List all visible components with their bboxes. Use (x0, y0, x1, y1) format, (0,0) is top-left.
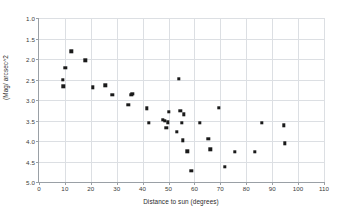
data-point (181, 138, 184, 141)
data-point (145, 106, 148, 109)
data-point (91, 86, 94, 89)
gridline-vertical (272, 18, 273, 182)
x-tick-label: 100 (293, 185, 304, 192)
gridline-horizontal (39, 80, 324, 81)
data-point (61, 78, 64, 81)
y-tick-label: 4.5 (26, 158, 35, 165)
y-tick-label: 5.0 (26, 179, 35, 186)
data-point (167, 110, 170, 113)
x-tick-label: 10 (61, 185, 68, 192)
y-tick-mark (36, 18, 39, 19)
gridline-vertical (143, 18, 144, 182)
data-point (209, 147, 212, 150)
y-tick-label: 2.0 (26, 56, 35, 63)
x-axis-title: Distance to sun (degrees) (38, 198, 324, 205)
x-tick-label: 70 (217, 185, 224, 192)
data-point (186, 150, 189, 153)
gridline-horizontal (39, 100, 324, 101)
data-point (62, 85, 65, 88)
gridline-vertical (220, 18, 221, 182)
scatter-chart: 1.01.52.02.53.03.54.04.55.00102030405060… (0, 0, 349, 218)
y-tick-mark (36, 162, 39, 163)
data-point (207, 137, 210, 140)
y-tick-label: 3.0 (26, 97, 35, 104)
data-point (127, 103, 130, 106)
data-point (70, 50, 73, 53)
gridline-vertical (169, 18, 170, 182)
gridline-vertical (65, 18, 66, 182)
data-point (177, 77, 180, 80)
x-tick-label: 20 (87, 185, 94, 192)
gridline-vertical (298, 18, 299, 182)
y-tick-label: 3.5 (26, 117, 35, 124)
data-point (180, 121, 183, 124)
data-point (182, 113, 185, 116)
data-point (190, 169, 193, 172)
data-point (253, 150, 256, 153)
data-point (83, 59, 86, 62)
x-tick-label: 90 (269, 185, 276, 192)
x-tick-label: 30 (113, 185, 120, 192)
x-tick-label: 110 (319, 185, 329, 192)
gridline-vertical (117, 18, 118, 182)
data-point (63, 66, 66, 69)
data-point (165, 126, 168, 129)
y-tick-label: 1.5 (26, 35, 35, 42)
data-point (198, 121, 201, 124)
data-point (111, 93, 114, 96)
plot-area: 1.01.52.02.53.03.54.04.55.00102030405060… (38, 18, 324, 183)
data-point (104, 84, 107, 87)
y-tick-mark (36, 80, 39, 81)
data-point (223, 165, 226, 168)
x-tick-label: 0 (37, 185, 41, 192)
data-point (175, 130, 178, 133)
gridline-horizontal (39, 39, 324, 40)
gridline-vertical (246, 18, 247, 182)
y-axis-title: (Mag/ arcsec^2 (2, 55, 9, 100)
data-point (283, 142, 286, 145)
y-tick-label: 1.0 (26, 15, 35, 22)
data-point (166, 120, 169, 123)
y-tick-mark (36, 121, 39, 122)
data-point (217, 106, 220, 109)
data-point (147, 121, 150, 124)
data-point (233, 150, 236, 153)
y-tick-mark (36, 141, 39, 142)
gridline-vertical (91, 18, 92, 182)
y-tick-mark (36, 39, 39, 40)
data-point (260, 121, 263, 124)
y-tick-label: 4.0 (26, 138, 35, 145)
y-tick-label: 2.5 (26, 76, 35, 83)
x-tick-label: 60 (191, 185, 198, 192)
gridline-vertical (194, 18, 195, 182)
y-tick-mark (36, 100, 39, 101)
x-tick-label: 40 (139, 185, 146, 192)
gridline-vertical (324, 18, 325, 182)
gridline-horizontal (39, 59, 324, 60)
gridline-horizontal (39, 18, 324, 19)
gridline-horizontal (39, 162, 324, 163)
x-tick-label: 80 (243, 185, 250, 192)
data-point (282, 124, 285, 127)
x-tick-label: 50 (165, 185, 172, 192)
data-point (131, 92, 134, 95)
y-tick-mark (36, 59, 39, 60)
data-point (179, 109, 182, 112)
